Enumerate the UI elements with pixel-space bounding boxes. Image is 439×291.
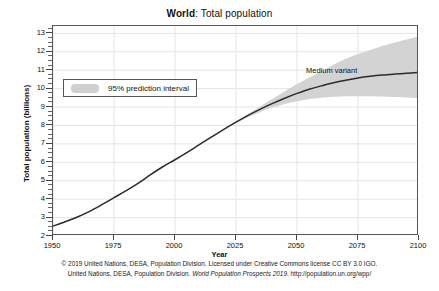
y-tick-minor <box>48 171 52 172</box>
y-tick-minor <box>48 194 52 195</box>
y-tick-label: 6 <box>21 157 45 166</box>
y-tick-minor <box>48 111 52 112</box>
y-tick-label: 4 <box>21 194 45 203</box>
y-tick-minor <box>48 221 52 222</box>
y-tick <box>46 143 52 144</box>
chart-legend: 95% prediction interval <box>63 79 197 97</box>
x-tick-label: 2000 <box>154 241 194 250</box>
y-tick-minor <box>48 129 52 130</box>
legend-label-prediction-interval: 95% prediction interval <box>108 84 189 93</box>
y-tick-minor <box>48 175 52 176</box>
y-tick-minor <box>48 189 52 190</box>
x-tick <box>113 235 114 240</box>
footer-line-2: United Nations, DESA, Population Divisio… <box>0 269 439 279</box>
y-tick-minor <box>48 74 52 75</box>
x-axis-label: Year <box>0 250 439 259</box>
x-tick-label: 2075 <box>337 241 377 250</box>
x-tick-label: 2025 <box>215 241 255 250</box>
y-tick-minor <box>48 134 52 135</box>
y-tick <box>46 88 52 89</box>
y-tick-minor <box>48 115 52 116</box>
y-tick-label: 12 <box>21 46 45 55</box>
y-tick-minor <box>48 166 52 167</box>
y-tick-minor <box>48 230 52 231</box>
y-tick-minor <box>48 120 52 121</box>
y-tick-minor <box>48 152 52 153</box>
x-tick-label: 1950 <box>32 241 72 250</box>
footer-line-1: © 2019 United Nations, DESA, Population … <box>0 259 439 269</box>
y-tick <box>46 106 52 107</box>
y-tick-minor <box>48 184 52 185</box>
y-tick-label: 7 <box>21 138 45 147</box>
y-tick <box>46 217 52 218</box>
prediction-interval-band <box>224 36 418 129</box>
y-tick-minor <box>48 60 52 61</box>
chart-title-rest: : Total population <box>195 8 272 19</box>
y-tick-label: 3 <box>21 212 45 221</box>
y-tick-minor <box>48 203 52 204</box>
y-tick-label: 10 <box>21 83 45 92</box>
y-tick <box>46 32 52 33</box>
footer-line2-citation: World Population Prospects 2019 <box>192 270 287 277</box>
y-tick-label: 2 <box>21 231 45 240</box>
annotation-medium-variant: Medium variant <box>306 66 357 75</box>
chart-title-bold: World <box>167 8 196 19</box>
y-tick-minor <box>48 46 52 47</box>
footer-line2-post: . http://population.un.org/wpp/ <box>287 270 371 277</box>
chart-figure: World: Total population Total population… <box>0 0 439 291</box>
y-tick-minor <box>48 101 52 102</box>
x-tick <box>418 235 419 240</box>
y-tick-minor <box>48 92 52 93</box>
x-tick <box>357 235 358 240</box>
y-tick-minor <box>48 148 52 149</box>
y-tick-minor <box>48 37 52 38</box>
y-tick <box>46 161 52 162</box>
x-tick <box>52 235 53 240</box>
y-tick-label: 11 <box>21 65 45 74</box>
legend-swatch-prediction-interval <box>71 84 99 93</box>
y-tick-minor <box>48 55 52 56</box>
x-tick-label: 2100 <box>398 241 438 250</box>
y-tick-minor <box>48 138 52 139</box>
y-tick-label: 13 <box>21 28 45 37</box>
y-tick <box>46 198 52 199</box>
y-tick-label: 9 <box>21 102 45 111</box>
y-tick-label: 8 <box>21 120 45 129</box>
footer-line2-pre: United Nations, DESA, Population Divisio… <box>68 270 192 277</box>
y-tick-minor <box>48 42 52 43</box>
x-tick <box>235 235 236 240</box>
x-tick <box>174 235 175 240</box>
y-tick-minor <box>48 78 52 79</box>
y-tick-minor <box>48 207 52 208</box>
y-tick <box>46 180 52 181</box>
y-tick <box>46 51 52 52</box>
y-tick-minor <box>48 212 52 213</box>
chart-title: World: Total population <box>0 8 439 19</box>
y-tick-minor <box>48 226 52 227</box>
y-tick-label: 5 <box>21 175 45 184</box>
y-tick-minor <box>48 28 52 29</box>
plot-area <box>52 25 418 235</box>
x-tick <box>296 235 297 240</box>
plot-svg <box>53 26 418 235</box>
y-tick-minor <box>48 83 52 84</box>
y-tick-minor <box>48 97 52 98</box>
y-tick-minor <box>48 157 52 158</box>
y-tick-minor <box>48 65 52 66</box>
chart-footer: © 2019 United Nations, DESA, Population … <box>0 259 439 279</box>
x-tick-label: 1975 <box>93 241 133 250</box>
y-tick <box>46 69 52 70</box>
x-tick-label: 2050 <box>276 241 316 250</box>
y-tick <box>46 124 52 125</box>
